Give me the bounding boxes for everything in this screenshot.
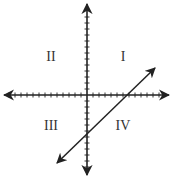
- quadrant-label-i: I: [121, 50, 126, 64]
- coordinate-plane: I II III IV: [0, 0, 173, 179]
- graphed-line: [57, 68, 155, 163]
- quadrant-label-iv: IV: [116, 119, 131, 133]
- quadrant-label-ii: II: [46, 50, 55, 64]
- coordinate-plane-graphic: [0, 0, 173, 179]
- quadrant-label-iii: III: [44, 119, 58, 133]
